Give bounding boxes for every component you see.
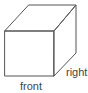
right-face-label: right: [66, 66, 87, 78]
front-face-label: front: [20, 80, 42, 92]
cube-diagram-canvas: front right: [0, 0, 88, 93]
cube-diagram: front right: [0, 0, 88, 93]
cube-front-face: [5, 31, 54, 76]
